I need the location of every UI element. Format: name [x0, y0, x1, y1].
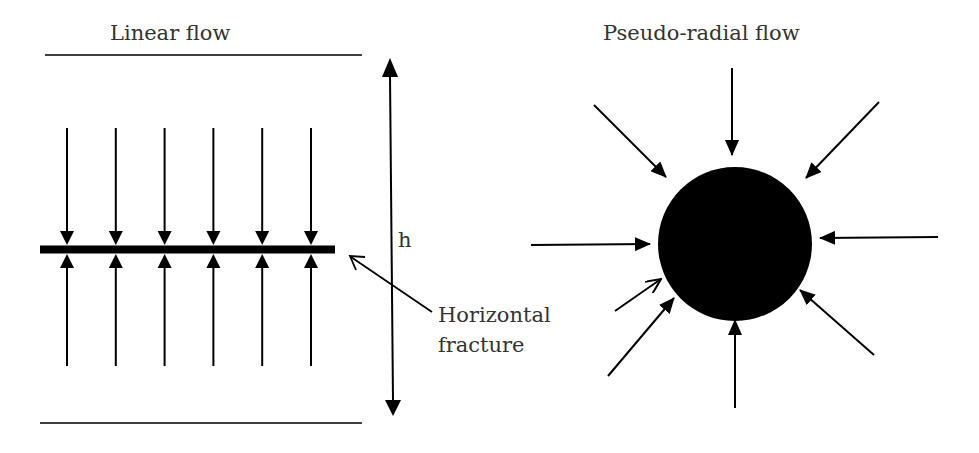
arrow-up-icon	[158, 254, 172, 268]
horizontal-fracture	[40, 246, 335, 254]
arrow-down-icon	[158, 231, 172, 245]
inflow-arrow-top-left	[594, 105, 666, 177]
height-dimension-line	[390, 76, 393, 400]
arrow-down-icon	[255, 231, 269, 245]
wellbore-circle	[658, 167, 812, 321]
arrow-down-icon	[206, 231, 220, 245]
arrow-up-icon	[109, 254, 123, 268]
arrow-down-icon	[109, 231, 123, 245]
arrow-up-icon	[255, 254, 269, 268]
inflow-arrow-lower-left-open	[615, 279, 661, 311]
arrow-up-icon	[206, 254, 220, 268]
arrow-up-icon	[304, 254, 318, 268]
inflow-arrow-left	[531, 244, 650, 245]
flow-regime-diagram: Linear flow h Horizontal fracture Pseudo…	[0, 0, 979, 453]
linear-flow-panel: Linear flow h Horizontal fracture	[40, 21, 551, 423]
inflow-arrow-top-right	[806, 102, 879, 178]
inflow-arrow-bottom-right	[800, 290, 874, 355]
height-arrow-up-icon	[382, 58, 398, 77]
height-label: h	[398, 228, 412, 252]
arrow-up-icon	[60, 254, 74, 268]
height-arrow-down-icon	[385, 400, 401, 416]
fracture-label-line1: Horizontal	[438, 303, 551, 327]
pseudo-radial-flow-panel: Pseudo-radial flow	[531, 21, 938, 408]
fracture-label-line2: fracture	[438, 333, 525, 357]
pseudo-radial-flow-title: Pseudo-radial flow	[603, 21, 800, 45]
inflow-arrow-right	[820, 237, 938, 238]
arrow-down-icon	[60, 231, 74, 245]
arrow-down-icon	[304, 231, 318, 245]
linear-flow-title: Linear flow	[110, 21, 230, 45]
